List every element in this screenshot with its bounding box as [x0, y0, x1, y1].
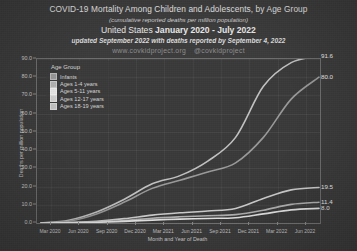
x-axis-label: Month and Year of Death: [36, 236, 319, 242]
y-axis-tick-mark: [33, 167, 36, 168]
x-axis-tick-mark: [220, 222, 221, 225]
legend-item-label: Ages 1-4 years: [60, 81, 98, 87]
y-axis-tick-mark: [33, 94, 36, 95]
legend: Age Group InfantsAges 1-4 yearsAges 5-11…: [46, 61, 110, 114]
legend-swatch-icon: [50, 81, 57, 88]
chart-subtitle: (cumulative reported deaths per million …: [0, 15, 357, 24]
x-axis-tick-label: Jun 2020: [68, 228, 89, 234]
gridline-vertical: [221, 59, 222, 223]
gridline-vertical: [193, 59, 194, 223]
y-axis-tick-label: 70.0: [22, 91, 33, 97]
gridline-vertical: [278, 59, 279, 223]
legend-title: Age Group: [51, 64, 104, 70]
y-axis-tick-label: 0.0: [25, 219, 33, 225]
legend-item[interactable]: Ages 12-17 years: [50, 95, 104, 102]
website-url[interactable]: www.covkidproject.org: [112, 47, 186, 54]
x-axis-tick-mark: [135, 222, 136, 225]
legend-item-label: Ages 18-19 years: [60, 103, 104, 109]
legend-items: InfantsAges 1-4 yearsAges 5-11 yearsAges…: [50, 73, 104, 110]
y-axis-tick-label: 40.0: [22, 146, 33, 152]
legend-item[interactable]: Ages 5-11 years: [50, 88, 104, 95]
y-axis-tick-label: 20.0: [22, 183, 33, 189]
legend-swatch-icon: [50, 73, 57, 80]
y-axis-label-wrap: Deaths per million population: [4, 58, 14, 222]
legend-item[interactable]: Infants: [50, 73, 104, 80]
y-axis-tick-mark: [33, 149, 36, 150]
x-axis-tick-mark: [248, 222, 249, 225]
chart-updated-note: updated September 2022 with deaths repor…: [0, 36, 357, 46]
chart-title-block: COVID-19 Mortality Among Children and Ad…: [0, 4, 357, 56]
y-axis-tick-label: 80.0: [22, 73, 33, 79]
x-axis-tick-label: Mar 2022: [266, 228, 287, 234]
gridline-vertical: [136, 59, 137, 223]
y-axis-tick-mark: [33, 76, 36, 77]
y-axis-tick-mark: [33, 58, 36, 59]
series-end-labels: 91.680.019.511.48.0: [319, 58, 357, 222]
chart-title: COVID-19 Mortality Among Children and Ad…: [0, 4, 357, 15]
series-end-label: 91.6: [321, 52, 333, 59]
legend-swatch-icon: [50, 95, 57, 102]
legend-item[interactable]: Ages 18-19 years: [50, 103, 104, 110]
y-axis-tick-label: 30.0: [22, 164, 33, 170]
legend-swatch-icon: [50, 88, 57, 95]
x-axis-tick-mark: [78, 222, 79, 225]
y-axis-tick-label: 10.0: [22, 201, 33, 207]
x-axis-tick-mark: [50, 222, 51, 225]
x-axis-tick-label: Jun 2021: [181, 228, 202, 234]
x-axis-tick-label: Dec 2020: [124, 228, 145, 234]
legend-item[interactable]: Ages 1-4 years: [50, 80, 104, 87]
y-axis-tick-mark: [33, 130, 36, 131]
country-label: United States: [101, 25, 155, 35]
x-axis-tick-mark: [192, 222, 193, 225]
x-axis-tick-mark: [107, 222, 108, 225]
legend-item-label: Ages 5-11 years: [60, 88, 100, 94]
gridline-vertical: [306, 59, 307, 223]
x-axis-tick-mark: [277, 222, 278, 225]
x-axis-tick-label: Sep 2020: [96, 228, 117, 234]
y-axis-tick-mark: [33, 185, 36, 186]
x-axis-tick-label: Jun 2022: [295, 228, 316, 234]
social-handle[interactable]: @covkidproject: [194, 47, 245, 54]
gridline-vertical: [249, 59, 250, 223]
x-axis-tick-label: Mar 2021: [153, 228, 174, 234]
y-axis-tick-mark: [33, 203, 36, 204]
y-axis-tick-mark: [33, 112, 36, 113]
x-axis-tick-label: Mar 2020: [39, 228, 60, 234]
series-end-label: 19.5: [321, 183, 333, 190]
series-end-label: 8.0: [321, 204, 330, 211]
chart-country-daterange: United States January 2020 - July 2022: [0, 24, 357, 36]
x-axis-tick-label: Dec 2021: [238, 228, 259, 234]
y-axis-tick-label: 50.0: [22, 128, 33, 134]
y-axis-tick-label: 60.0: [22, 110, 33, 116]
legend-item-label: Ages 12-17 years: [60, 96, 104, 102]
x-axis-tick-label: Sep 2021: [209, 228, 230, 234]
gridline-vertical: [164, 59, 165, 223]
date-range-label: January 2020 - July 2022: [155, 25, 256, 35]
chart-source-line: www.covkidproject.org@covkidproject: [0, 46, 357, 56]
series-end-label: 80.0: [321, 73, 333, 80]
legend-item-label: Infants: [60, 74, 77, 80]
x-axis-tick-mark: [163, 222, 164, 225]
legend-swatch-icon: [50, 103, 57, 110]
x-axis-tick-mark: [305, 222, 306, 225]
y-axis: Deaths per million population 0.010.020.…: [0, 58, 36, 222]
